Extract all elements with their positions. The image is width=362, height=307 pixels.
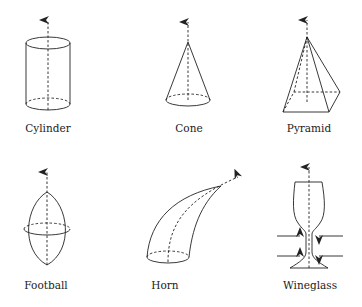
label-horn: Horn	[115, 279, 215, 291]
cylinder-shape	[26, 20, 70, 110]
football-shape	[24, 172, 70, 265]
horn-shape	[147, 177, 238, 263]
wineglass-shape	[277, 167, 343, 268]
label-pyramid: Pyramid	[259, 122, 359, 134]
cone-shape	[166, 22, 210, 106]
label-cylinder: Cylinder	[0, 122, 98, 134]
label-wineglass: Wineglass	[260, 279, 360, 291]
label-football: Football	[0, 279, 96, 291]
shapes-diagram	[0, 0, 362, 307]
label-cone: Cone	[139, 122, 239, 134]
pyramid-shape	[283, 20, 340, 112]
axis-arrow-icon	[168, 177, 238, 262]
